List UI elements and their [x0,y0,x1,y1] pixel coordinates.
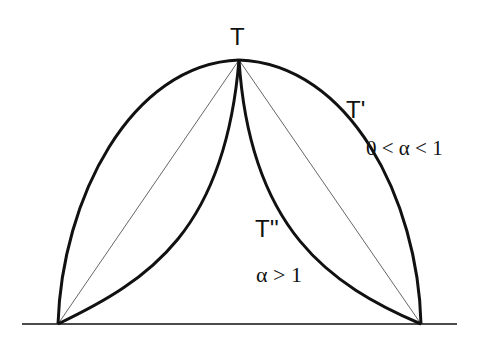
upper-curve-label: T' [346,96,365,123]
transformation-diagram: T T' 0 < α < 1 T'' α > 1 [0,0,492,342]
upper-condition-label: 0 < α < 1 [366,136,443,160]
lower-condition-label: α > 1 [256,262,302,287]
apex-label: T [230,23,245,50]
lower-curve-label: T'' [255,215,279,242]
